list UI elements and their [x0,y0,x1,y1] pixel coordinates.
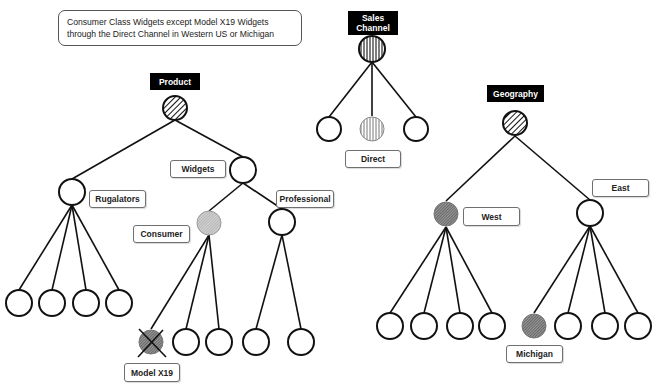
sales-channel-root-node[interactable] [359,36,385,62]
professional-label: Professional [276,190,334,208]
consumer-child-node[interactable] [173,329,199,355]
consumer-node[interactable] [197,211,221,235]
michigan-label: Michigan [506,345,563,363]
rugalators-child-node[interactable] [106,290,132,316]
east-label: East [592,179,649,197]
professional-child-node[interactable] [243,329,269,355]
sales-channel-dimension-label: Sales Channel [348,11,398,35]
west-node[interactable] [434,202,458,226]
geography-dimension-label: Geography [487,85,544,102]
widgets-label: Widgets [170,160,226,178]
michigan-node[interactable] [522,314,546,338]
west-child-node[interactable] [377,313,403,339]
sales-channel-label-line2: Channel [356,23,390,33]
sales-channel-edges [329,62,416,117]
east-child-node[interactable] [555,313,581,339]
channel-child-node[interactable] [404,117,428,141]
geography-root-node[interactable] [503,111,527,135]
direct-node[interactable] [360,117,384,141]
rugalators-node[interactable] [59,179,85,205]
query-line-1: Consumer Class Widgets except Model X19 … [67,16,293,28]
east-child-node[interactable] [592,313,618,339]
widgets-node[interactable] [230,157,256,183]
query-line-2: through the Direct Channel in Western US… [67,28,293,40]
rugalators-child-node[interactable] [73,290,99,316]
model-x19-label: Model X19 [124,363,180,382]
rugalators-label: Rugalators [89,190,146,208]
product-dimension-label: Product [150,73,200,90]
rugalators-child-node[interactable] [6,290,32,316]
west-child-node[interactable] [479,313,505,339]
east-child-node[interactable] [625,313,651,339]
query-description-box: Consumer Class Widgets except Model X19 … [58,10,302,46]
west-label: West [463,207,520,226]
product-root-node[interactable] [163,96,187,120]
consumer-label: Consumer [133,225,190,243]
professional-child-node[interactable] [288,329,314,355]
rugalators-child-node[interactable] [39,290,65,316]
east-node[interactable] [577,200,603,226]
professional-node[interactable] [269,209,295,235]
direct-label: Direct [345,150,401,168]
consumer-child-node[interactable] [206,329,232,355]
west-child-node[interactable] [447,313,473,339]
sales-channel-label-line1: Sales [362,13,384,23]
channel-child-node[interactable] [317,117,341,141]
west-child-node[interactable] [411,313,437,339]
